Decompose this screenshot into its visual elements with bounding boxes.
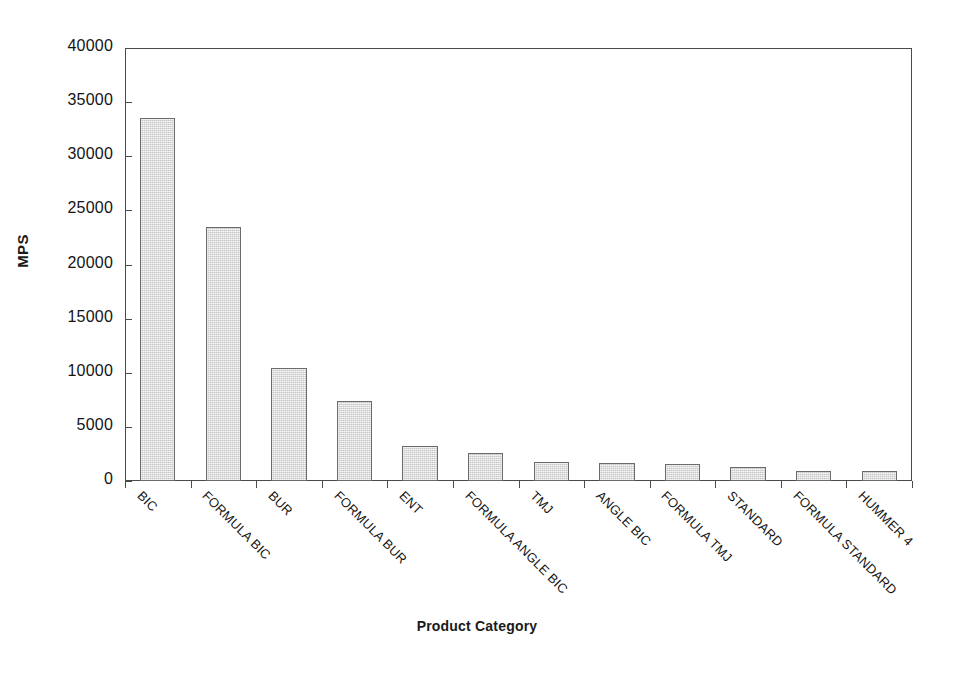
bar	[337, 401, 372, 481]
y-axis-tick-label: 25000	[41, 199, 113, 217]
y-axis-tick-mark	[125, 210, 132, 211]
y-axis-tick-mark	[125, 373, 132, 374]
y-axis-tick-label: 10000	[41, 362, 113, 380]
x-axis-tick-mark	[584, 481, 585, 488]
x-axis-tick-label: FORMULA BIC	[200, 488, 274, 562]
x-axis-tick-mark	[650, 481, 651, 488]
y-axis-tick-label: 30000	[41, 145, 113, 163]
y-axis-tick-mark	[125, 319, 132, 320]
y-axis-tick-label: 5000	[41, 416, 113, 434]
y-axis-tick-label: 35000	[41, 91, 113, 109]
x-axis-tick-mark	[846, 481, 847, 488]
x-axis-tick-mark	[256, 481, 257, 488]
y-axis-tick-mark	[125, 48, 132, 49]
bar	[206, 227, 241, 481]
x-axis-tick-mark	[453, 481, 454, 488]
x-axis-tick-label: BIC	[134, 488, 160, 514]
y-axis-tick-label: 15000	[41, 308, 113, 326]
x-axis-tick-mark	[322, 481, 323, 488]
x-axis-tick-mark	[715, 481, 716, 488]
bar	[730, 467, 765, 481]
x-axis-tick-mark	[191, 481, 192, 488]
y-axis-tick-mark	[125, 102, 132, 103]
x-axis-tick-mark	[519, 481, 520, 488]
bar	[599, 463, 634, 481]
bar	[271, 368, 306, 481]
bar	[140, 118, 175, 481]
y-axis-tick-mark	[125, 427, 132, 428]
x-axis-tick-label: TMJ	[528, 488, 557, 517]
bar-chart: MPS 050001000015000200002500030000350004…	[0, 0, 954, 681]
x-axis-tick-label: BUR	[265, 488, 295, 518]
x-axis-tick-label: FORMULA TMJ	[659, 488, 736, 565]
x-axis-tick-label: HUMMER 4	[856, 488, 917, 549]
x-axis-title: Product Category	[0, 618, 954, 634]
y-axis-tick-label: 0	[41, 470, 113, 488]
x-axis-tick-mark	[781, 481, 782, 488]
x-axis-tick-label: ENT	[397, 488, 426, 517]
x-axis-tick-mark	[125, 481, 126, 488]
bar	[534, 462, 569, 481]
y-axis-tick-mark	[125, 265, 132, 266]
y-axis-tick-label: 20000	[41, 254, 113, 272]
bar	[402, 446, 437, 481]
bar	[665, 464, 700, 481]
x-axis-tick-label: ANGLE BIC	[593, 488, 654, 549]
bar	[468, 453, 503, 481]
plot-area	[125, 48, 912, 481]
x-axis-tick-mark	[912, 481, 913, 488]
y-axis-title: MPS	[14, 206, 31, 296]
y-axis-tick-label: 40000	[41, 37, 113, 55]
x-axis-tick-mark	[387, 481, 388, 488]
bar	[796, 471, 831, 481]
y-axis-tick-mark	[125, 481, 132, 482]
y-axis-tick-mark	[125, 156, 132, 157]
bar	[862, 471, 897, 481]
x-axis-tick-label: STANDARD	[724, 488, 786, 550]
